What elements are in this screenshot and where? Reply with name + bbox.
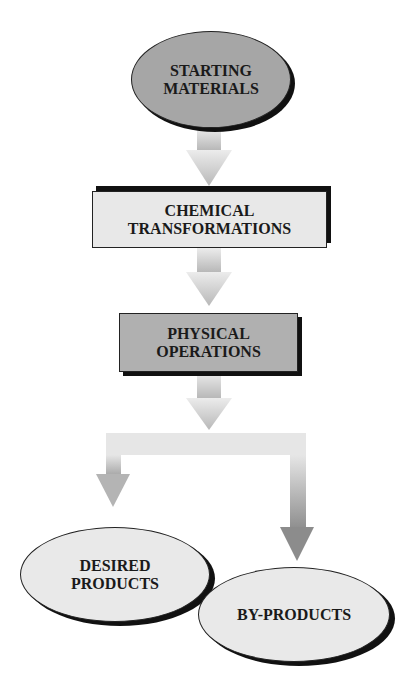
arrow-down-icon [186,128,232,186]
arrow-down-icon [186,372,232,430]
node-label: DESIRED PRODUCTS [71,557,159,593]
node-label: PHYSICAL OPERATIONS [156,325,261,361]
node-desired-products: DESIRED PRODUCTS [20,527,210,622]
node-by-products: BY-PRODUCTS [198,567,390,662]
arrow-down-icon [186,248,232,306]
branch-bar [106,433,306,455]
node-starting-materials: STARTING MATERIALS [131,31,291,128]
node-physical-operations: PHYSICAL OPERATIONS [119,313,298,372]
arrow-down-left-branch-icon [96,455,130,507]
node-chemical-transformations: CHEMICAL TRANSFORMATIONS [92,191,327,248]
node-label: BY-PRODUCTS [237,606,351,624]
arrow-down-right-branch-icon [280,455,314,561]
node-label: CHEMICAL TRANSFORMATIONS [128,202,291,238]
node-label: STARTING MATERIALS [163,62,259,98]
